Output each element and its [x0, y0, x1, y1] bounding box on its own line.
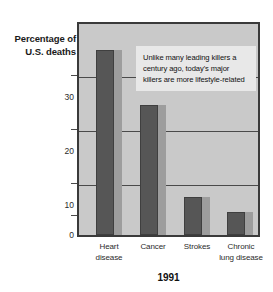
annotation-line-3: killers are more lifestyle-related	[143, 74, 250, 85]
plot-inner: Unlike many leading killers a century ag…	[79, 24, 258, 235]
bar-body-chronic-lung-disease	[227, 212, 245, 235]
annotation-line-2: century ago, today's major	[143, 63, 250, 74]
x-tick-label-chronic-lung-disease-line-1: Chronic	[228, 242, 255, 251]
x-tick-label-chronic-lung-disease-line-2: lung disease	[219, 253, 263, 262]
y-tick-label-0: 0	[52, 230, 74, 240]
y-tick-label-30: 30	[52, 92, 74, 102]
x-axis-title: 1991	[77, 272, 260, 283]
x-tick-label-chronic-lung-disease: Chronic lung disease	[205, 241, 273, 263]
chart-annotation: Unlike many leading killers a century ag…	[136, 46, 256, 91]
annotation-line-1: Unlike many leading killers a	[143, 52, 250, 63]
y-tick-label-10: 10	[52, 200, 74, 210]
x-tick-label-cancer-line-1: Cancer	[140, 242, 165, 251]
x-axis-tick-labels: Heart disease Cancer Strokes Chronic lun…	[77, 241, 260, 273]
bar-heart-disease	[96, 24, 126, 235]
bar-chart-figure: Percentage of U.S. deaths 30 20 10 0	[0, 0, 273, 292]
bar-body-heart-disease	[96, 50, 114, 235]
plot-area: Unlike many leading killers a century ag…	[77, 22, 260, 237]
bar-body-strokes	[184, 197, 202, 235]
x-tick-label-heart-disease-line-2: disease	[96, 253, 123, 262]
x-tick-label-heart-disease-line-1: Heart	[99, 242, 118, 251]
y-tick-label-20: 20	[52, 146, 74, 156]
bar-body-cancer	[140, 105, 158, 235]
